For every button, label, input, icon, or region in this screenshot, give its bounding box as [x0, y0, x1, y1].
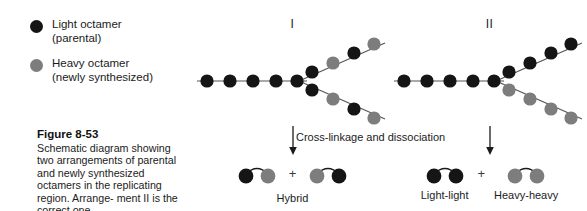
legend-label-heavy: Heavy octamer — [52, 57, 129, 69]
heavy-heavy-label: Heavy-heavy — [494, 189, 558, 201]
down-arrow-icon — [483, 126, 497, 156]
light-light-pair: Light-light — [421, 162, 469, 201]
legend-sublabel-light: (parental) — [52, 32, 122, 46]
octamer-pair-icon — [503, 162, 549, 186]
legend: Light octamer (parental) Heavy octamer (… — [30, 18, 200, 96]
heavy-heavy-pair: Heavy-heavy — [494, 162, 558, 201]
octamer-pair-icon — [422, 162, 468, 186]
plus-sign-i: + — [289, 162, 297, 181]
panel-arrangement-ii: II — [392, 0, 587, 211]
hybrid-label: Hybrid — [277, 192, 309, 204]
dark-circle-icon — [30, 20, 43, 33]
legend-item-light-text: Light octamer (parental) — [52, 18, 122, 45]
figure-caption: Figure 8-53 Schematic diagram showing tw… — [37, 128, 189, 211]
panel-ii-label: II — [392, 17, 587, 31]
cross-linkage-note: Cross-linkage and dissociation — [296, 131, 445, 143]
fork-lower-branch-nucleosomes-i — [305, 83, 380, 124]
plus-sign-ii: + — [477, 162, 485, 181]
octamer-pair-icon — [234, 162, 280, 186]
panel-i-product-label-wrap: Hybrid — [195, 188, 390, 206]
legend-sublabel-heavy: (newly synthesized) — [52, 71, 153, 85]
light-light-label: Light-light — [421, 189, 469, 201]
hybrid-pair-right — [305, 162, 351, 186]
legend-item-heavy: Heavy octamer (newly synthesized) — [30, 57, 200, 84]
panel-i-products: + — [195, 162, 390, 186]
fork-upper-branch-nucleosomes-ii — [502, 37, 577, 78]
legend-label-light: Light octamer — [52, 18, 122, 30]
figure-root: Light octamer (parental) Heavy octamer (… — [0, 0, 587, 211]
replication-fork-diagram-i — [195, 36, 390, 126]
legend-item-light: Light octamer (parental) — [30, 18, 200, 45]
hybrid-pair-left — [234, 162, 280, 186]
figure-number: Figure 8-53 — [37, 128, 189, 141]
replication-fork-diagram-ii — [392, 36, 587, 126]
fork-lower-branch-nucleosomes-ii — [502, 83, 577, 124]
octamer-pair-icon — [305, 162, 351, 186]
panel-ii-products: Light-light + Heavy-heavy — [392, 162, 587, 201]
fork-upper-branch-nucleosomes-i — [305, 37, 380, 78]
legend-item-heavy-text: Heavy octamer (newly synthesized) — [52, 57, 153, 84]
figure-caption-body: Schematic diagram showing two arrangemen… — [37, 142, 189, 211]
panel-arrangement-i: I — [195, 0, 390, 211]
gray-circle-icon — [30, 59, 43, 72]
panel-i-label: I — [195, 17, 390, 31]
